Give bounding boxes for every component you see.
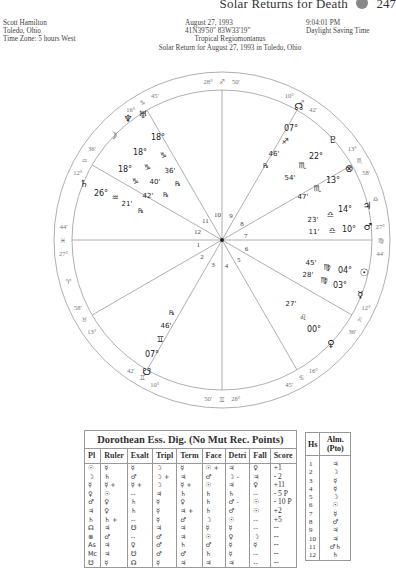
planet-minute: 46' bbox=[161, 322, 172, 330]
planet-pluto: ♇22°♏54' bbox=[285, 134, 338, 182]
cusp-minute: 44' bbox=[60, 223, 68, 230]
dignities-cell: ♃ bbox=[177, 524, 202, 533]
dignities-planet-cell: ♄ bbox=[85, 516, 101, 525]
intercepted-sign-icon: ♎ bbox=[373, 195, 379, 203]
dignities-planet-cell: ☉ bbox=[85, 464, 101, 473]
almuten-house-cell: 2 bbox=[306, 468, 320, 476]
cusp-sign-icon: ♉ bbox=[81, 316, 87, 324]
planet-minute: 11' bbox=[309, 228, 320, 236]
house-number-7: 7 bbox=[244, 232, 248, 240]
planet-part-of-fortune: ⊗13°♏47' bbox=[298, 163, 354, 201]
cusp-minute: 58' bbox=[74, 304, 82, 311]
wheel-center bbox=[220, 238, 224, 242]
cusp-degree: 13° bbox=[87, 328, 97, 335]
planet-mercury: ☿03°♍28' bbox=[303, 271, 363, 300]
dignities-planet-cell: ☽ bbox=[85, 473, 101, 482]
cusp-label-house-1: 27°♓44' bbox=[59, 223, 69, 258]
dignities-cell: ♃ bbox=[225, 481, 250, 490]
dignities-cell: ♀ bbox=[250, 481, 270, 490]
dignities-cell: ☿ + bbox=[127, 481, 152, 490]
planet-glyph-icon: ☋ bbox=[143, 366, 152, 377]
dignities-cell: ♂ bbox=[202, 473, 225, 482]
dignities-cell: ♃ bbox=[177, 473, 202, 482]
almuten-house-cell: 11 bbox=[306, 543, 320, 551]
house-number-3: 3 bbox=[211, 261, 215, 269]
dignities-row: Mc♃☋♂♂♄☿---- bbox=[85, 550, 297, 559]
almuten-house-cell: 7 bbox=[306, 510, 320, 518]
almuten-house-cell: 12 bbox=[306, 551, 320, 560]
dignities-row: ♃♀♄☿♃ +♄♂☉+2 bbox=[85, 507, 297, 516]
dignities-cell: -- bbox=[250, 490, 270, 499]
planet-glyph-icon: ☊ bbox=[295, 101, 304, 112]
almuten-ruler-cell: ☉ bbox=[320, 501, 351, 509]
cusp-label-house-12: 12°♒36' bbox=[73, 145, 95, 176]
cusp-label-house-6: 12°♌36' bbox=[348, 304, 371, 335]
dignities-cell: -- bbox=[250, 524, 270, 533]
dignities-cell: ♂ - bbox=[225, 498, 250, 507]
dignities-planet-cell: ♃ bbox=[85, 507, 101, 516]
planet-minute: 21' bbox=[122, 200, 133, 208]
planet-glyph-icon: ♆ bbox=[124, 113, 133, 124]
chart-date: August 27, 1993 bbox=[140, 19, 320, 27]
almuten-ruler-cell: ☿ bbox=[320, 510, 351, 518]
planet-glyph-icon: ⊗ bbox=[345, 163, 353, 174]
chart-coordinates: 41N39'50" 83W33'19" bbox=[140, 27, 320, 35]
planet-minute: 45' bbox=[306, 259, 317, 267]
dignities-cell: ☽ bbox=[152, 464, 176, 473]
dignities-header-ruler: Ruler bbox=[101, 449, 128, 464]
cusp-minute: 45' bbox=[285, 381, 293, 388]
planet-degree: 04° bbox=[338, 266, 352, 275]
cusp-label-house-7: 27°♍44' bbox=[376, 223, 386, 258]
dignities-planet-cell: ⊗ bbox=[85, 533, 101, 542]
planet-glyph-icon: ♇ bbox=[329, 134, 338, 145]
dignities-cell: ♂ bbox=[152, 533, 176, 542]
cusp-degree: 13° bbox=[348, 145, 358, 152]
planet-sign-icon: ♑ bbox=[131, 177, 138, 186]
cusp-minute: 50' bbox=[232, 78, 240, 85]
planet-jupiter: ♃14°♎23' bbox=[308, 200, 372, 224]
dignities-cell: ☿ + bbox=[101, 481, 128, 490]
cusp-line-11 bbox=[147, 110, 222, 240]
planet-sign-icon: ♎ bbox=[326, 210, 333, 219]
almuten-house-cell: 1 bbox=[306, 456, 320, 469]
dignities-cell: ☿ bbox=[101, 464, 128, 473]
dignities-table-title: Dorothean Ess. Dig. (No Mut Rec. Points) bbox=[85, 431, 297, 449]
cusp-minute: 36' bbox=[88, 145, 96, 152]
planet-degree: 00° bbox=[307, 325, 321, 334]
dignities-cell: ☿ bbox=[152, 498, 176, 507]
planet-degree: 26° bbox=[94, 189, 108, 198]
dignities-cell: ♄ bbox=[202, 507, 225, 516]
dignities-table: Dorothean Ess. Dig. (No Mut Rec. Points)… bbox=[84, 430, 297, 568]
house-number-5: 5 bbox=[237, 256, 241, 264]
cusp-degree: 28° bbox=[204, 78, 214, 85]
almuten-row: 7☿ bbox=[306, 510, 351, 518]
planet-degree: 07° bbox=[145, 350, 159, 359]
dignities-cell: -- bbox=[250, 559, 270, 568]
dignities-cell: ♂ bbox=[101, 533, 128, 542]
planet-degree: 18° bbox=[151, 133, 165, 142]
planet-degree: 18° bbox=[118, 165, 132, 174]
cusp-degree: 12° bbox=[362, 304, 372, 311]
dignities-row: ☊♃☋♃♃☿☿---- bbox=[85, 524, 297, 533]
cusp-sign-icon: ♐ bbox=[219, 78, 225, 86]
dignities-planet-cell: ☊ bbox=[85, 524, 101, 533]
almuten-header-almuten: Alm. (Pto) bbox=[320, 433, 351, 456]
almuten-house-cell: 10 bbox=[306, 535, 320, 543]
dignities-row: ☽♄♂☽ +♃♂☽ -♃- 2 bbox=[85, 473, 297, 482]
dignities-row: ☿☿ +☿ +☽☿ +☉♃♀+11 bbox=[85, 481, 297, 490]
planet-sign-icon: ♎ bbox=[328, 226, 335, 235]
dignities-row: ♂♀♄☿♀♄♂ -☉- 10 P bbox=[85, 498, 297, 507]
intercepted-sign-icon: ♈ bbox=[66, 278, 72, 286]
dignities-cell: ♂ bbox=[127, 473, 152, 482]
planet-glyph-icon: ♀ bbox=[327, 338, 334, 349]
almuten-header-house: Hs bbox=[306, 433, 320, 456]
almuten-house-cell: 3 bbox=[306, 477, 320, 485]
dignities-cell: ☽ - bbox=[225, 473, 250, 482]
chart-info-right: 9:04:01 PM Daylight Saving Time bbox=[306, 19, 370, 35]
dignities-cell: ☽ + bbox=[152, 473, 176, 482]
dignities-planet-cell: ☋ bbox=[85, 559, 101, 568]
dignities-cell: ♀ bbox=[225, 533, 250, 542]
chart-wheel: 123456789101112 27°♓44'13°♉58'10°♊42'28°… bbox=[0, 50, 396, 430]
retrograde-icon: ℞ bbox=[169, 309, 175, 317]
planet-sign-icon: ♌ bbox=[299, 313, 306, 322]
